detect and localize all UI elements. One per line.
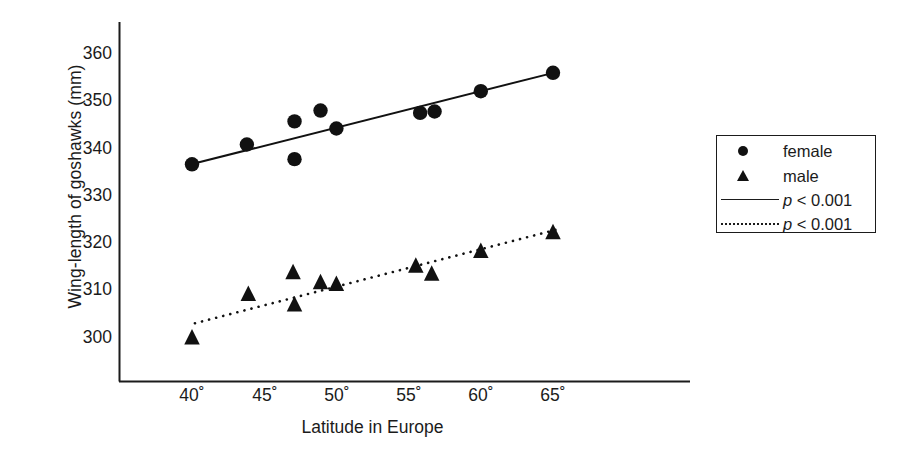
legend-label-female: female bbox=[783, 142, 833, 161]
legend-p-rest-dotted: < 0.001 bbox=[792, 215, 852, 233]
legend: female male p < 0.001 p < 0.001 bbox=[716, 135, 876, 233]
data-point-female bbox=[329, 121, 343, 135]
legend-item-female[interactable]: female bbox=[717, 139, 877, 163]
data-point-female bbox=[287, 114, 301, 128]
legend-item-solid-fit[interactable]: p < 0.001 bbox=[717, 188, 877, 212]
legend-item-dotted-fit[interactable]: p < 0.001 bbox=[717, 212, 877, 236]
circle-marker-icon bbox=[717, 139, 783, 163]
data-series-layer bbox=[184, 66, 561, 345]
series-male bbox=[184, 224, 561, 345]
data-point-male bbox=[329, 276, 345, 292]
data-point-female bbox=[287, 152, 301, 166]
data-point-male bbox=[313, 274, 329, 290]
figure-container: Wing-length of goshawks (mm) 360 350 340… bbox=[0, 0, 919, 459]
legend-p-italic-dotted: p bbox=[783, 215, 792, 233]
data-point-male bbox=[424, 265, 440, 281]
data-point-female bbox=[427, 104, 441, 118]
data-point-female bbox=[185, 157, 199, 171]
male-trend bbox=[195, 229, 557, 323]
data-point-female bbox=[474, 84, 488, 98]
data-point-female bbox=[413, 106, 427, 120]
legend-label-male: male bbox=[783, 167, 819, 186]
data-point-female bbox=[546, 66, 560, 80]
triangle-marker-icon bbox=[717, 164, 783, 188]
legend-item-male[interactable]: male bbox=[717, 164, 877, 188]
data-point-male bbox=[473, 243, 489, 259]
data-point-female bbox=[240, 137, 254, 151]
data-point-male bbox=[285, 264, 301, 280]
legend-label-dotted-p: p < 0.001 bbox=[783, 215, 852, 234]
data-point-female bbox=[313, 103, 327, 117]
legend-p-italic-solid: p bbox=[783, 191, 792, 209]
legend-p-rest-solid: < 0.001 bbox=[792, 191, 852, 209]
data-point-male bbox=[241, 286, 257, 302]
data-point-male bbox=[287, 296, 303, 312]
solid-line-icon bbox=[717, 188, 783, 212]
dotted-line-icon bbox=[717, 212, 783, 236]
legend-label-solid-p: p < 0.001 bbox=[783, 191, 852, 210]
data-point-male bbox=[184, 329, 200, 345]
